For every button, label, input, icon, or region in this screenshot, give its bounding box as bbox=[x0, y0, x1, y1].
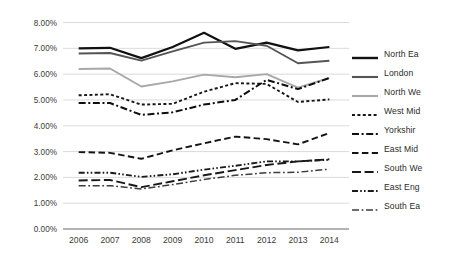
y-axis-tick-label: 3.00% bbox=[34, 148, 57, 157]
x-axis-tick-label: 2006 bbox=[69, 235, 88, 245]
legend-item-label: South Ea bbox=[384, 201, 420, 211]
y-axis-tick-labels: 0.00%1.00%2.00%3.00%4.00%5.00%6.00%7.00%… bbox=[34, 19, 57, 235]
legend-item-yorkshir[interactable]: Yorkshir bbox=[352, 120, 451, 139]
legend-item-north-we[interactable]: North We bbox=[352, 82, 451, 101]
series-line bbox=[79, 159, 330, 187]
legend-item-label: London bbox=[384, 68, 413, 78]
x-axis-tick-label: 2011 bbox=[226, 235, 245, 245]
x-axis-tick-label: 2009 bbox=[163, 235, 182, 245]
legend-item-label: North We bbox=[384, 87, 421, 97]
x-axis-tick-label: 2007 bbox=[100, 235, 119, 245]
legend-item-south-ea[interactable]: South Ea bbox=[352, 197, 451, 216]
legend-item-label: South We bbox=[384, 163, 422, 173]
y-axis-tick-label: 2.00% bbox=[34, 173, 57, 182]
legend-item-east-mid[interactable]: East Mid bbox=[352, 139, 451, 158]
legend-swatch-icon bbox=[352, 163, 378, 173]
y-axis-tick-label: 6.00% bbox=[34, 70, 57, 79]
y-axis-tick-label: 1.00% bbox=[34, 199, 57, 208]
legend-item-label: Yorkshir bbox=[384, 125, 416, 135]
legend-swatch-icon bbox=[352, 68, 378, 78]
series-line bbox=[79, 68, 330, 87]
y-axis-tick-label: 5.00% bbox=[34, 96, 57, 105]
legend-swatch-icon bbox=[352, 201, 378, 211]
legend-item-label: West Mid bbox=[384, 106, 420, 116]
legend-item-label: East Mid bbox=[384, 144, 418, 154]
y-axis-tick-label: 7.00% bbox=[34, 44, 57, 53]
legend-item-london[interactable]: London bbox=[352, 63, 451, 82]
series-line bbox=[79, 133, 330, 159]
y-axis-tick-label: 8.00% bbox=[34, 19, 57, 28]
legend-item-label: North Ea bbox=[384, 49, 419, 59]
legend-item-label: East Eng bbox=[384, 182, 420, 192]
y-axis-tick-label: 4.00% bbox=[34, 122, 57, 131]
chart-legend: North EaLondonNorth WeWest MidYorkshirEa… bbox=[352, 44, 451, 216]
x-axis-tick-label: 2014 bbox=[320, 235, 339, 245]
y-axis-tick-label: 0.00% bbox=[34, 225, 57, 234]
legend-swatch-icon bbox=[352, 49, 378, 59]
legend-swatch-icon bbox=[352, 144, 378, 154]
series-lines bbox=[79, 33, 330, 189]
line-chart: 0.00%1.00%2.00%3.00%4.00%5.00%6.00%7.00%… bbox=[0, 0, 451, 259]
legend-item-south-we[interactable]: South We bbox=[352, 159, 451, 178]
x-axis-tick-label: 2010 bbox=[194, 235, 213, 245]
series-line bbox=[79, 169, 330, 189]
legend-swatch-icon bbox=[352, 182, 378, 192]
legend-swatch-icon bbox=[352, 87, 378, 97]
x-axis-tick-label: 2013 bbox=[288, 235, 307, 245]
x-axis-tick-labels: 200620072008200920102011201220132014 bbox=[69, 235, 339, 245]
legend-item-west-mid[interactable]: West Mid bbox=[352, 101, 451, 120]
x-axis-tick-label: 2008 bbox=[132, 235, 151, 245]
series-line bbox=[79, 41, 330, 63]
x-axis-tick-label: 2012 bbox=[257, 235, 276, 245]
legend-item-east-eng[interactable]: East Eng bbox=[352, 178, 451, 197]
legend-swatch-icon bbox=[352, 106, 378, 116]
legend-swatch-icon bbox=[352, 125, 378, 135]
legend-item-north-ea[interactable]: North Ea bbox=[352, 44, 451, 63]
